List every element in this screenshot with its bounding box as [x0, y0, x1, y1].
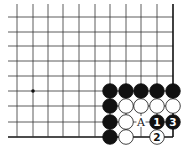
- black-stone: [150, 84, 165, 99]
- markers: A: [136, 116, 146, 129]
- white-stone: [119, 130, 134, 145]
- black-stone: [166, 84, 181, 99]
- move-number-1: 1: [153, 116, 160, 128]
- white-stone: [150, 99, 165, 114]
- black-stone: [134, 84, 149, 99]
- white-stone: [119, 115, 134, 130]
- move-number-3: 3: [169, 116, 176, 128]
- stones: 132: [103, 84, 181, 145]
- white-stone: [119, 99, 134, 114]
- white-stone: [134, 99, 149, 114]
- black-stone: [103, 99, 118, 114]
- black-stone: [103, 84, 118, 99]
- hoshi-point: [31, 89, 35, 93]
- black-stone: [119, 84, 134, 99]
- black-stone: [103, 130, 118, 145]
- hoshi-points: [31, 89, 35, 93]
- go-board-diagram: 132 A: [0, 0, 190, 150]
- point-label-a: A: [136, 116, 146, 129]
- black-stone: [103, 115, 118, 130]
- grid-lines: [8, 4, 173, 137]
- white-stone: [166, 99, 181, 114]
- move-number-2: 2: [153, 131, 160, 143]
